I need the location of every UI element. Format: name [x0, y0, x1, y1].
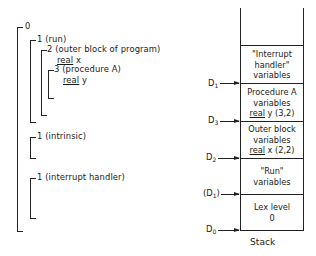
cell-decl: real y (3,2)	[241, 108, 303, 119]
bracket-interrupt-handler	[30, 178, 36, 219]
stack: "Interrupt handler" variables Procedure …	[240, 8, 304, 231]
stack-divider	[241, 194, 303, 195]
keyword-real: real	[250, 108, 266, 118]
decl-rest: x (2,2)	[265, 145, 294, 155]
label-interrupt-handler: 1 (interrupt handler)	[37, 172, 125, 182]
cell-line: Outer block	[241, 124, 303, 135]
arrow-icon	[221, 194, 239, 195]
decl-rest: y (3,2)	[265, 108, 294, 118]
cell-line: 0	[241, 213, 303, 224]
cell-decl: real x (2,2)	[241, 145, 303, 156]
bracket-intrinsic	[30, 137, 36, 159]
cell-line: handler"	[241, 60, 303, 71]
pointer-d1-paren: (D1)	[203, 188, 220, 199]
cell-line: Procedure A	[241, 87, 303, 98]
stack-divider	[241, 83, 303, 84]
cell-line: variables	[241, 70, 303, 81]
pointer-d0: D0	[206, 224, 216, 235]
cell-line: variables	[241, 177, 303, 188]
arrow-icon	[218, 158, 239, 159]
stack-cell-interrupt-handler: "Interrupt handler" variables	[241, 49, 303, 81]
label-intrinsic: 1 (intrinsic)	[37, 131, 86, 141]
cell-line: variables	[241, 98, 303, 109]
stack-divider	[241, 45, 303, 46]
arrow-icon	[220, 83, 239, 84]
arrow-icon	[218, 230, 239, 231]
label-outer-block: 2 (outer block of program)	[47, 44, 160, 54]
stack-cell-procedure-a: Procedure A variables real y (3,2)	[241, 87, 303, 119]
cell-line: "Interrupt	[241, 49, 303, 60]
label-level-0: 0	[25, 21, 30, 31]
var-y: y	[79, 75, 87, 85]
keyword-real: real	[63, 75, 79, 85]
cell-line: "Run"	[241, 166, 303, 177]
stack-cell-lex-level-0: Lex level 0	[241, 202, 303, 223]
label-procedure-a: 3 (procedure A)	[54, 64, 121, 74]
cell-line: variables	[241, 135, 303, 146]
decl-real-y: real y	[63, 75, 87, 85]
stack-divider	[241, 121, 303, 122]
arrow-icon	[220, 121, 239, 122]
bracket-level-0	[17, 27, 23, 232]
stack-cell-outer-block: Outer block variables real x (2,2)	[241, 124, 303, 156]
stack-caption: Stack	[250, 237, 275, 247]
label-run: 1 (run)	[37, 34, 66, 44]
keyword-real: real	[250, 145, 266, 155]
stack-divider	[241, 158, 303, 159]
bracket-run	[30, 40, 36, 123]
pointer-d1: D1	[208, 78, 218, 89]
stack-cell-run: "Run" variables	[241, 166, 303, 187]
cell-line: Lex level	[241, 202, 303, 213]
pointer-d3: D3	[208, 115, 218, 126]
bracket-outer-block	[41, 50, 47, 116]
pointer-d2: D2	[206, 152, 216, 163]
bracket-procedure-a	[48, 70, 54, 99]
